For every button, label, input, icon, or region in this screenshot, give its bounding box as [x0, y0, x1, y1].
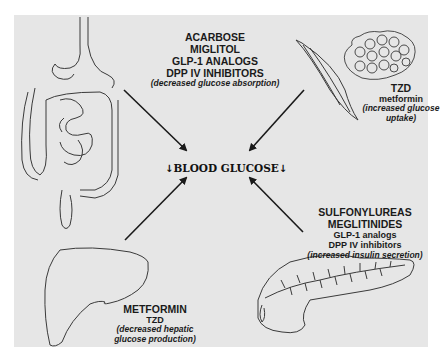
drug-name: TZD [356, 82, 445, 94]
liver-drug-label: METFORMIN TZD (decreased hepatic glucose… [100, 303, 210, 345]
arrow-liver-to-glucose [125, 178, 186, 240]
arrow-muscle-to-glucose [250, 90, 304, 150]
drug-name: GLP-1 ANALOGS [135, 55, 295, 67]
drug-name: METFORMIN [100, 303, 210, 315]
drug-name: MEGLITINIDES [300, 218, 430, 230]
gut-drug-label: ACARBOSE MIGLITOL GLP-1 ANALOGS DPP IV I… [135, 31, 295, 89]
effect-text: (increased glucose uptake) [356, 104, 445, 124]
center-text: BLOOD GLUCOSE [173, 162, 278, 174]
pancreas-drug-label: SULFONYLUREAS MEGLITINIDES GLP-1 analogs… [300, 206, 430, 261]
effect-text: (decreased glucose absorption) [135, 79, 295, 89]
adipose-icon [344, 31, 415, 80]
down-arrow-icon: ↓ [279, 163, 287, 174]
drug-name: ACARBOSE [135, 31, 295, 43]
drug-name: MIGLITOL [135, 43, 295, 55]
drug-name: SULFONYLUREAS [300, 206, 430, 218]
blood-glucose-label: ↓BLOOD GLUCOSE↓ [165, 162, 280, 174]
muscle-icon [296, 40, 358, 120]
intestine-icon [22, 17, 118, 229]
pancreas-icon [258, 255, 414, 333]
muscle-drug-label: TZD metformin (increased glucose uptake) [356, 82, 445, 124]
drug-name: GLP-1 analogs [300, 230, 430, 240]
effect-text: glucose production) [100, 335, 210, 345]
effect-text: (increased insulin secretion) [300, 251, 430, 261]
arrow-gut-to-glucose [124, 90, 186, 150]
arrow-pancreas-to-glucose [250, 178, 303, 232]
